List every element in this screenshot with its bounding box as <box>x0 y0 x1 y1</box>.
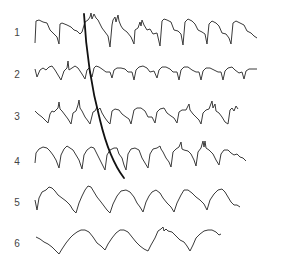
trace-3 <box>35 100 238 124</box>
progression-curve <box>84 14 124 178</box>
trace-1 <box>35 13 257 47</box>
trace-2 <box>35 61 257 80</box>
waveform-figure: 1 2 3 4 5 6 <box>0 0 289 267</box>
waveforms-svg <box>0 0 289 267</box>
trace-6 <box>36 227 221 254</box>
trace-5 <box>35 186 240 213</box>
trace-4 <box>35 141 246 170</box>
